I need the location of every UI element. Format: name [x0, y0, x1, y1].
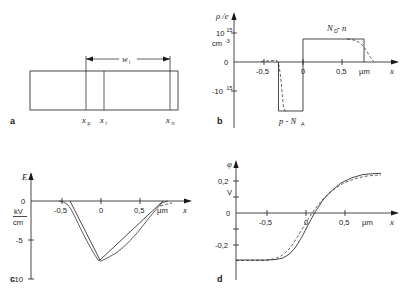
panel-b-charge-density: ρ /e 10 15 cm -3 0 -10 15 -0,5 0 0,5 µm …	[207, 0, 414, 148]
x-tick-label-minus05: -0,5	[54, 206, 67, 215]
y-axis-unit-volt: V	[227, 188, 233, 197]
label-xi: x	[99, 115, 104, 125]
x-tick-label-minus05: -0,5	[256, 67, 269, 76]
panel-c-svg: E 0 kV cm -5 -10 -0,5 0 0,5 µm x c	[0, 148, 207, 296]
x-axis-unit-micrometer: µm	[157, 206, 168, 215]
acceptor-smooth-tail	[261, 61, 276, 62]
potential-solid-curve	[236, 173, 381, 260]
y-tick-label-neg: -10	[212, 87, 223, 96]
x-axis-arrowhead-icon	[391, 59, 399, 64]
x-axis-label-x: x	[389, 66, 394, 76]
panel-letter-a: a	[10, 116, 16, 126]
acceptor-smooth-curve	[276, 60, 286, 112]
panel-a-schematic: w i x p x i x n a	[0, 0, 207, 148]
y-axis-arrowhead-icon	[231, 12, 236, 20]
y-axis-arrowhead-icon	[28, 172, 33, 180]
y-axis-label-phi: φ	[227, 159, 232, 169]
x-tick-label-05: 0,5	[134, 206, 145, 215]
y-axis-label-E: E	[21, 172, 28, 182]
y-axis-unit-numerator: kV	[14, 207, 24, 216]
acceptor-step-curve	[279, 62, 304, 111]
panel-letter-d: d	[217, 274, 223, 284]
panel-a-svg: w i x p x i x n a	[0, 0, 207, 148]
x-axis-arrowhead-icon	[391, 210, 399, 215]
y-axis-label-rho-e: ρ /e	[215, 11, 229, 21]
x-axis-unit-micrometer: µm	[359, 67, 370, 76]
field-triangular-curve	[70, 201, 163, 260]
y-axis-unit-denominator: cm	[13, 218, 23, 227]
potential-dashed-curve	[236, 175, 381, 261]
y-tick-label-pos: 10	[216, 29, 224, 38]
y-axis-arrowhead-icon	[233, 160, 238, 168]
panel-letter-c: c	[10, 274, 15, 284]
panel-c-electric-field: E 0 kV cm -5 -10 -0,5 0 0,5 µm x c	[0, 148, 207, 296]
y-axis-unit-cm: cm	[212, 39, 222, 48]
width-label-sub: i	[129, 59, 130, 65]
arrowhead-left-icon	[86, 57, 93, 62]
y-tick-label-neg02: -0,2	[215, 241, 228, 250]
donor-label-rest: - n	[337, 23, 346, 33]
y-tick-label-pos-sup: 15	[227, 27, 233, 33]
y-tick-label-neg-sup: 15	[227, 85, 233, 91]
x-axis-label-x: x	[389, 217, 394, 227]
acceptor-label: p - N	[278, 116, 297, 126]
x-tick-label-05: 0,5	[339, 218, 350, 227]
label-xi-sub: i	[106, 120, 107, 126]
figure-container: w i x p x i x n a ρ /	[0, 0, 414, 296]
field-smooth-curve	[59, 201, 168, 261]
panel-d-svg: φ 0,2 V 0 -0,2 -0,5 0 0,5 µm x d	[207, 148, 414, 296]
x-axis-label-x: x	[182, 205, 187, 215]
donor-step-curve	[303, 39, 364, 62]
y-tick-label-zero: 0	[224, 58, 228, 67]
x-tick-label-05: 0,5	[336, 67, 347, 76]
label-xp-sub: p	[88, 120, 91, 126]
y-tick-label-zero: 0	[226, 209, 230, 218]
x-axis-arrowhead-icon	[184, 198, 192, 203]
panel-d-potential: φ 0,2 V 0 -0,2 -0,5 0 0,5 µm x d	[207, 148, 414, 296]
panel-letter-b: b	[217, 116, 223, 126]
x-tick-label-0: 0	[99, 206, 103, 215]
x-axis-unit-micrometer: µm	[362, 218, 373, 227]
label-xn: x	[165, 115, 170, 125]
y-tick-label-minus5: -5	[16, 236, 23, 245]
acceptor-label-sub: A	[301, 121, 305, 127]
arrowhead-right-icon	[163, 57, 170, 62]
y-axis-unit-cm-sup: -3	[225, 38, 230, 44]
donor-label: N	[326, 23, 334, 33]
label-xn-sub: n	[172, 120, 175, 126]
width-label: w	[122, 54, 128, 64]
label-xp: x	[81, 115, 86, 125]
panel-b-svg: ρ /e 10 15 cm -3 0 -10 15 -0,5 0 0,5 µm …	[207, 0, 414, 148]
donor-smooth-curve	[347, 39, 374, 62]
y-tick-label-zero: 0	[21, 197, 25, 206]
y-tick-label-pos02: 0,2	[218, 177, 229, 186]
x-tick-label-minus05: -0,5	[259, 218, 272, 227]
